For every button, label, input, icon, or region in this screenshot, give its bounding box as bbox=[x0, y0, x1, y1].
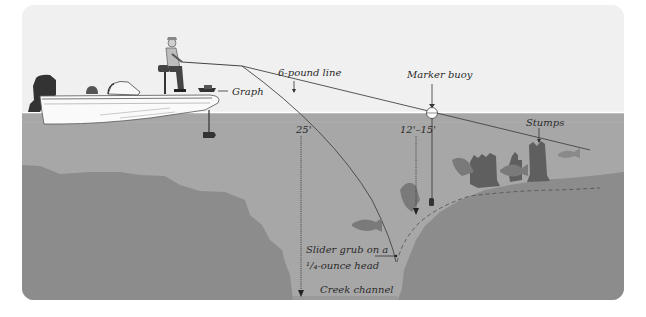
fishing-diagram: 6-pound line Graph Marker buoy Stumps 25… bbox=[0, 0, 646, 317]
label-channel: Creek channel bbox=[320, 284, 394, 295]
label-stumps: Stumps bbox=[526, 117, 564, 128]
buoy-weight-icon bbox=[429, 198, 434, 206]
label-marker-buoy: Marker buoy bbox=[406, 69, 473, 80]
label-line: 6-pound line bbox=[278, 67, 341, 78]
label-graph: Graph bbox=[232, 86, 264, 97]
label-lure-line2: ¹/₄-ounce head bbox=[306, 260, 379, 271]
label-depth-shallow: 12'–15' bbox=[400, 124, 436, 135]
label-depth-deep: 25' bbox=[295, 124, 311, 135]
trolling-motor-icon bbox=[203, 132, 216, 138]
label-lure-line1: Slider grub on a bbox=[306, 244, 388, 255]
